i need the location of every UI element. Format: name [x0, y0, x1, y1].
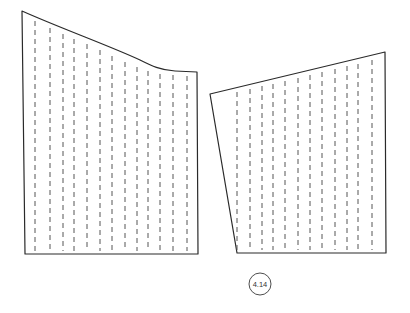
- pattern-diagram: 4.14: [0, 0, 410, 313]
- right-pattern-piece: [210, 52, 386, 253]
- left-piece-outline: [22, 11, 198, 254]
- figure-label: 4.14: [253, 280, 268, 289]
- figure-number-badge: 4.14: [249, 273, 271, 295]
- left-pattern-piece: [22, 11, 198, 254]
- right-piece-grain-lines: [237, 60, 372, 250]
- left-piece-grain-lines: [35, 21, 187, 251]
